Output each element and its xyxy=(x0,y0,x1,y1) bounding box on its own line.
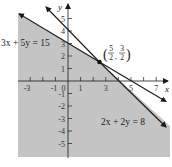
svg-text:): ) xyxy=(126,47,131,63)
svg-text:,: , xyxy=(115,52,117,61)
svg-text:(: ( xyxy=(103,47,108,63)
x-tick-label: 7 xyxy=(154,84,158,93)
svg-text:5: 5 xyxy=(109,44,113,53)
x-tick-label: 3 xyxy=(104,84,108,93)
svg-text:2: 2 xyxy=(120,53,124,62)
y-tick-label: -1 xyxy=(58,90,65,99)
x-axis-label: x xyxy=(164,84,169,94)
svg-text:3: 3 xyxy=(120,44,124,53)
y-tick-label: 2 xyxy=(61,52,65,61)
shaded-region xyxy=(18,14,170,157)
equation-label-2x-2y-8: 2x + 2y = 8 xyxy=(101,117,145,127)
svg-text:2: 2 xyxy=(109,53,113,62)
y-tick-label: 4 xyxy=(61,27,65,36)
y-tick-label: 1 xyxy=(61,65,65,74)
y-axis-label: y xyxy=(57,2,62,12)
y-tick-label: -3 xyxy=(58,115,65,124)
equation-label-3x-5y-15: 3x + 5y = 15 xyxy=(1,38,50,48)
intersection-label: ( 5 2 , 3 2 ) xyxy=(103,44,131,63)
y-tick-label: 5 xyxy=(61,15,65,24)
inequality-graph: -3 -1 0 1 3 5 7 5 4 3 2 1 -1 -2 -3 -4 -5… xyxy=(0,0,172,167)
x-tick-label: 1 xyxy=(79,84,83,93)
x-tick-label: -1 xyxy=(51,84,58,93)
x-tick-label: -3 xyxy=(24,84,31,93)
y-tick-label: -5 xyxy=(58,140,65,149)
y-tick-label: -4 xyxy=(58,127,65,136)
intersection-point xyxy=(97,60,102,65)
y-tick-label: -2 xyxy=(58,102,65,111)
